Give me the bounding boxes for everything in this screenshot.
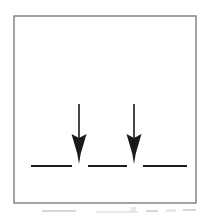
scan-artifact-artifact-c	[146, 210, 158, 212]
scan-artifact-artifact-f	[130, 207, 136, 211]
scan-artifact-artifact-b	[96, 211, 138, 213]
scan-artifact-artifact-d	[166, 209, 176, 212]
scan-artifact-artifact-e	[183, 209, 196, 211]
line-drawing-figure	[0, 0, 210, 219]
figure-container: Two downward arrows converging on a dash…	[0, 0, 210, 219]
scan-artifact-artifact-a	[42, 210, 76, 212]
outer-frame	[14, 16, 196, 203]
